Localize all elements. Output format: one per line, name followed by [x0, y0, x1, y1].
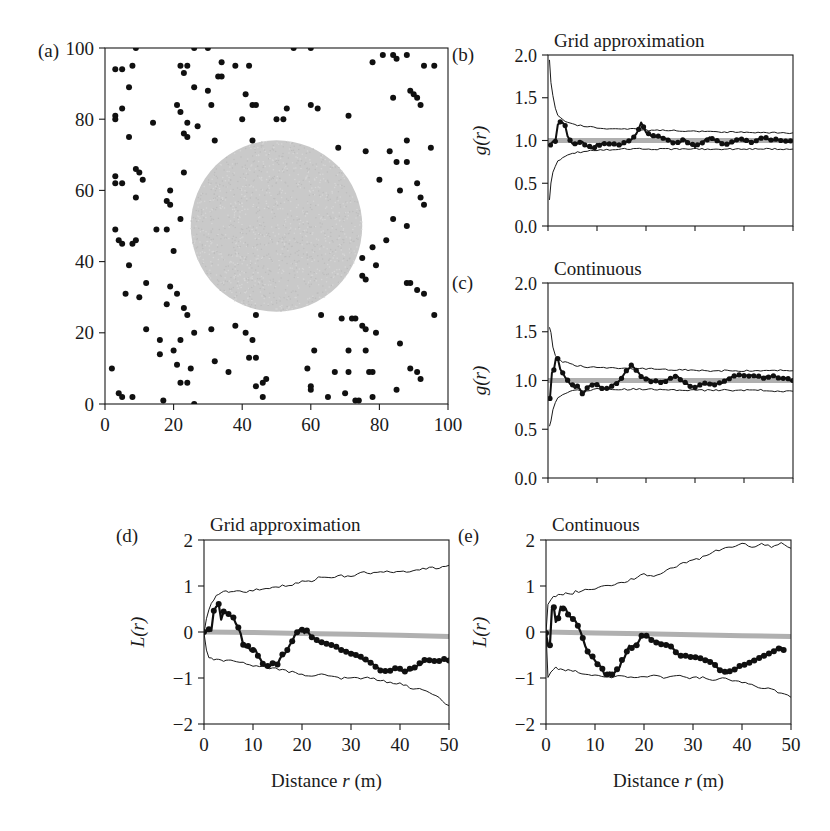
gray-disc-speckle [338, 212, 340, 214]
gray-disc-speckle [283, 308, 285, 310]
gray-disc-speckle [310, 277, 312, 279]
scatter-point [308, 387, 314, 393]
gray-disc-speckle [230, 282, 232, 284]
gray-disc-speckle [258, 233, 260, 235]
gray-disc-speckle [255, 258, 257, 260]
gray-disc-speckle [314, 179, 316, 181]
scatter-point [315, 106, 321, 112]
observed-marker [781, 647, 787, 653]
gray-disc-speckle [201, 228, 203, 230]
gray-disc-speckle [299, 158, 301, 160]
gray-disc-speckle [290, 147, 292, 149]
gray-disc-speckle [268, 154, 270, 156]
gray-disc-speckle [257, 249, 259, 251]
gray-disc-speckle [340, 248, 342, 250]
gray-disc-speckle [296, 306, 298, 308]
gray-disc-speckle [234, 297, 236, 299]
gray-disc-speckle [302, 239, 304, 241]
gray-disc-speckle [231, 288, 233, 290]
gray-disc-speckle [325, 207, 327, 209]
gray-disc-speckle [339, 269, 341, 271]
observed-marker [548, 142, 553, 147]
gray-disc-speckle [357, 238, 359, 240]
gray-disc-speckle [266, 190, 268, 192]
series-group-e [543, 0, 792, 697]
scatter-point [335, 145, 341, 151]
gray-disc-speckle [336, 257, 338, 259]
gray-disc-speckle [283, 162, 285, 164]
scatter-point [304, 365, 310, 371]
gray-disc-speckle [198, 227, 200, 229]
gray-disc-speckle [313, 194, 315, 196]
observed-marker [697, 382, 702, 387]
gray-disc-speckle [341, 187, 343, 189]
gray-disc-speckle [218, 196, 220, 198]
gray-disc-speckle [228, 254, 230, 256]
panel-label-b: (b) [452, 44, 474, 66]
gray-disc-speckle [331, 227, 333, 229]
gray-disc-speckle [221, 283, 223, 285]
gray-disc-speckle [257, 278, 259, 280]
observed-marker [786, 0, 792, 3]
gray-disc-speckle [209, 211, 211, 213]
gray-disc-speckle [248, 288, 250, 290]
y-tick-label-e-4: −2 [515, 714, 535, 735]
observed-marker [636, 127, 641, 132]
gray-disc-speckle [239, 217, 241, 219]
gray-disc-speckle [323, 246, 325, 248]
envelope-line-e-upper [546, 543, 791, 633]
gray-disc-speckle [289, 174, 291, 176]
gray-disc-speckle [320, 217, 322, 219]
gray-disc-speckle [303, 253, 305, 255]
gray-disc-speckle [241, 270, 243, 272]
scatter-point [191, 84, 197, 90]
y-axis-label-b: g(r) [469, 126, 491, 156]
gray-disc-speckle [294, 274, 296, 276]
gray-disc-speckle [257, 211, 259, 213]
gray-disc-speckle [200, 193, 202, 195]
gray-disc-speckle [346, 236, 348, 238]
gray-disc-speckle [245, 195, 247, 197]
scatter-point [394, 159, 400, 165]
gray-disc-speckle [267, 304, 269, 306]
gray-disc-speckle [294, 232, 296, 234]
gray-disc-speckle [307, 150, 309, 152]
gray-disc-speckle [356, 246, 358, 248]
scatter-point [157, 337, 163, 343]
gray-disc-speckle [331, 208, 333, 210]
observed-marker [211, 608, 217, 614]
scatter-point [356, 397, 362, 403]
gray-disc-speckle [312, 301, 314, 303]
gray-disc-speckle [307, 169, 309, 171]
gray-disc-speckle [344, 178, 346, 180]
gray-disc-speckle [296, 216, 298, 218]
gray-disc-speckle [203, 217, 205, 219]
gray-disc-speckle [274, 213, 276, 215]
gray-disc-speckle [356, 238, 358, 240]
scatter-point [160, 397, 166, 403]
gray-disc-speckle [278, 260, 280, 262]
gray-disc-speckle [219, 184, 221, 186]
gray-disc-speckle [288, 232, 290, 234]
gray-disc-speckle [195, 218, 197, 220]
gray-disc-speckle [264, 284, 266, 286]
gray-disc-speckle [257, 283, 259, 285]
observed-marker [732, 373, 737, 378]
gray-disc-speckle [288, 157, 290, 159]
gray-disc-speckle [347, 272, 349, 274]
gray-disc-speckle [269, 150, 271, 152]
scatter-point [171, 348, 177, 354]
x-tick-label-e-10: 10 [586, 734, 605, 755]
gray-disc-speckle [295, 263, 297, 265]
gray-disc-speckle [232, 225, 234, 227]
gray-disc-speckle [211, 263, 213, 265]
gray-disc-speckle [295, 264, 297, 266]
gray-disc-speckle [282, 253, 284, 255]
gray-disc-speckle [261, 177, 263, 179]
gray-disc-speckle [305, 211, 307, 213]
gray-disc-speckle [247, 209, 249, 211]
envelope-line-d-upper [204, 565, 449, 633]
y-tick-label-c-3: 1.5 [515, 322, 538, 342]
observed-marker [648, 379, 653, 384]
gray-disc-speckle [230, 205, 232, 207]
